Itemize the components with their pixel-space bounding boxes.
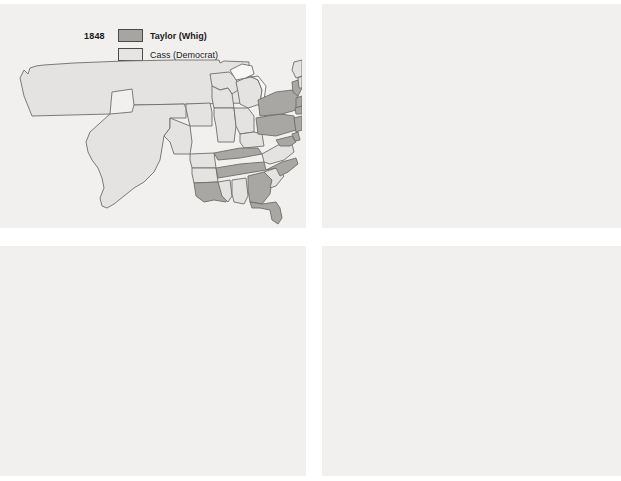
panel-1852: 1852 Pierce (Democrat) Scott (Whig) [322, 4, 621, 228]
map-1848 [14, 56, 302, 226]
panel-1860: 1860 Lincoln (Republican) Bell (Constitu… [322, 246, 621, 476]
year-label-1848: 1848 [84, 31, 118, 41]
legend-swatch-taylor [118, 29, 143, 42]
legend-row: 1848 Taylor (Whig) [84, 28, 218, 43]
panel-1856: 1856 Buchanan (Democrat) Frémont (Republ… [0, 246, 306, 476]
panel-1848: 1848 Taylor (Whig) Cass (Democrat) [0, 4, 306, 228]
election-maps-figure: 1848 Taylor (Whig) Cass (Democrat) [0, 0, 621, 481]
legend-label-taylor: Taylor (Whig) [150, 31, 207, 41]
